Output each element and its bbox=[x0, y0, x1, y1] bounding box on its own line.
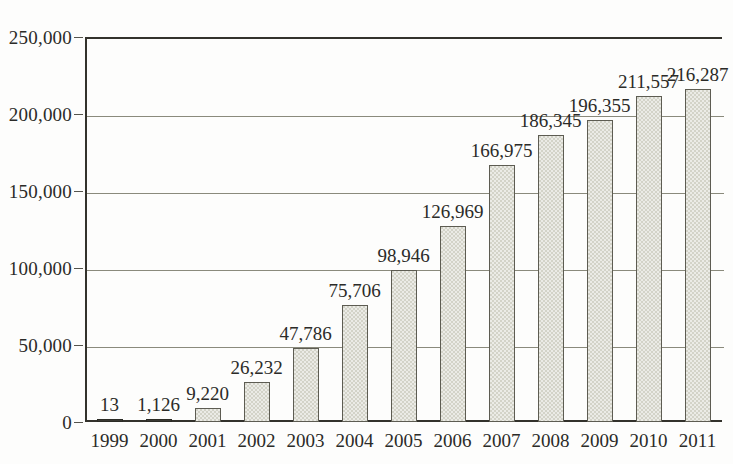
x-axis-tick-label: 2002 bbox=[232, 430, 281, 452]
x-axis-tick-label: 2001 bbox=[183, 430, 232, 452]
bar bbox=[685, 89, 711, 422]
bar bbox=[195, 408, 221, 422]
bar-slot bbox=[489, 37, 515, 422]
x-axis-tick-label: 2007 bbox=[477, 430, 526, 452]
y-axis-tick-label: 0 bbox=[62, 413, 72, 432]
y-axis-tick bbox=[74, 345, 83, 346]
bar bbox=[587, 120, 613, 422]
bar-value-label: 216,287 bbox=[643, 65, 733, 84]
bar-slot bbox=[391, 37, 417, 422]
y-axis-tick-label: 150,000 bbox=[9, 182, 72, 201]
bar bbox=[244, 382, 270, 422]
y-axis-tick-label: 100,000 bbox=[9, 259, 72, 278]
x-axis-tick-label: 2005 bbox=[379, 430, 428, 452]
bar-slot bbox=[685, 37, 711, 422]
y-axis-tick-label: 250,000 bbox=[9, 28, 72, 47]
bar-slot bbox=[293, 37, 319, 422]
bar bbox=[342, 305, 368, 422]
clipped-header-text bbox=[0, 0, 728, 6]
x-axis-tick-label: 2010 bbox=[624, 430, 673, 452]
x-axis-tick-label: 2009 bbox=[575, 430, 624, 452]
bar-slot bbox=[97, 37, 123, 422]
bar bbox=[440, 226, 466, 422]
x-axis-tick-label: 2003 bbox=[281, 430, 330, 452]
x-axis-tick-label: 2011 bbox=[673, 430, 722, 452]
x-axis-tick-label: 2004 bbox=[330, 430, 379, 452]
bar bbox=[146, 419, 172, 422]
y-axis-tick bbox=[74, 191, 83, 192]
bar bbox=[489, 165, 515, 422]
y-axis-tick-label: 50,000 bbox=[19, 336, 72, 355]
x-axis-tick-label: 2008 bbox=[526, 430, 575, 452]
y-axis-tick bbox=[74, 37, 83, 38]
bar bbox=[636, 96, 662, 422]
y-axis-tick bbox=[74, 422, 83, 423]
bars-layer: 131,1269,22026,23247,78675,70698,946126,… bbox=[85, 37, 722, 422]
x-axis-tick-label: 2000 bbox=[134, 430, 183, 452]
x-axis-tick-label: 2006 bbox=[428, 430, 477, 452]
x-axis-labels: 1999200020012002200320042005200620072008… bbox=[85, 430, 722, 460]
bar-slot bbox=[636, 37, 662, 422]
bar bbox=[391, 270, 417, 422]
y-axis-tick bbox=[74, 114, 83, 115]
y-axis-tick bbox=[74, 268, 83, 269]
bar bbox=[97, 419, 123, 422]
bar-slot bbox=[342, 37, 368, 422]
bar-slot bbox=[146, 37, 172, 422]
bar-slot bbox=[440, 37, 466, 422]
bar bbox=[538, 135, 564, 422]
x-axis-tick-label: 1999 bbox=[85, 430, 134, 452]
y-axis-tick-label: 200,000 bbox=[9, 105, 72, 124]
bar bbox=[293, 348, 319, 422]
